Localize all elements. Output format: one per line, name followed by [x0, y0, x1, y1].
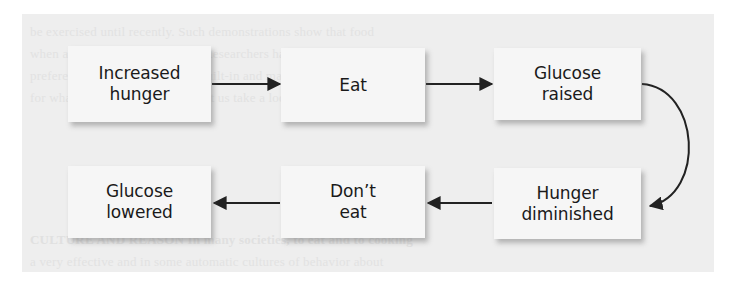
scanned-page-area: be exercised until recently. Such demons…	[22, 14, 714, 272]
node-hunger-diminished-line1: Hunger	[537, 183, 599, 203]
node-increased-hunger[interactable]: Increasedhunger	[68, 46, 211, 122]
figure-root: be exercised until recently. Such demons…	[0, 0, 755, 287]
node-eat-label: Eat	[335, 75, 371, 96]
node-hunger-diminished-label: Hungerdiminished	[517, 183, 617, 224]
node-glucose-raised[interactable]: Glucoseraised	[494, 48, 641, 120]
node-glucose-lowered-label: Glucoselowered	[102, 181, 177, 222]
node-hunger-diminished[interactable]: Hungerdiminished	[494, 168, 641, 239]
bleed-through-text-line-6: a very effective and in some automatic c…	[30, 254, 384, 270]
node-increased-hunger-line2: hunger	[110, 84, 170, 104]
node-increased-hunger-label: Increasedhunger	[95, 63, 185, 104]
node-glucose-raised-line2: raised	[542, 84, 594, 104]
node-dont-eat-label: Don’teat	[326, 181, 380, 222]
node-glucose-raised-line1: Glucose	[534, 63, 601, 83]
node-glucose-lowered[interactable]: Glucoselowered	[68, 166, 211, 238]
node-glucose-lowered-line2: lowered	[106, 202, 173, 222]
node-dont-eat-line1: Don’t	[330, 181, 376, 201]
node-increased-hunger-line1: Increased	[99, 63, 181, 83]
node-glucose-lowered-line1: Glucose	[106, 181, 173, 201]
node-eat[interactable]: Eat	[281, 48, 425, 122]
edge-glucose-raised-to-hunger-diminished	[642, 84, 689, 206]
bleed-through-text-line-1: be exercised until recently. Such demons…	[30, 24, 374, 40]
node-hunger-diminished-line2: diminished	[521, 204, 613, 224]
node-dont-eat-line2: eat	[339, 202, 366, 222]
node-dont-eat[interactable]: Don’teat	[281, 166, 425, 238]
node-glucose-raised-label: Glucoseraised	[530, 63, 605, 104]
